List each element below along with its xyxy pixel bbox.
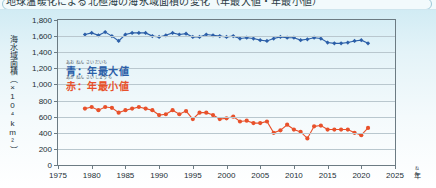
sea-ice-extent-chart-figure: 地球温暖化による北極海の海氷域面積の変化（年最大値・年最小値） 海水域面積（×1…: [0, 0, 436, 188]
data-point-marker: [117, 111, 121, 115]
data-point-marker: [204, 111, 208, 115]
y-gridline: [58, 36, 395, 37]
y-tick-mark: [54, 36, 58, 37]
data-point-marker: [123, 108, 127, 112]
data-point-marker: [332, 127, 336, 131]
data-point-marker: [197, 111, 201, 115]
data-point-marker: [150, 108, 154, 112]
y-tick-label: 400: [18, 128, 52, 137]
data-point-marker: [144, 31, 148, 35]
y-tick-mark: [54, 68, 58, 69]
y-tick-label: 1,600: [18, 32, 52, 41]
x-tick-mark: [361, 165, 362, 169]
data-point-marker: [170, 31, 174, 35]
data-point-marker: [366, 41, 370, 45]
x-tick-label: 2025: [375, 171, 415, 180]
data-point-marker: [326, 127, 330, 131]
x-axis-unit: ねん 年: [414, 170, 421, 180]
y-tick-label: 600: [18, 112, 52, 121]
data-point-marker: [305, 136, 309, 140]
data-point-marker: [90, 31, 94, 35]
data-point-marker: [245, 119, 249, 123]
data-point-marker: [258, 38, 262, 42]
y-tick-label: 1,000: [18, 80, 52, 89]
data-point-marker: [332, 41, 336, 45]
data-point-marker: [359, 38, 363, 42]
y-tick-label: 800: [18, 96, 52, 105]
x-axis-unit-ruby: ねん: [415, 165, 421, 177]
data-point-marker: [96, 108, 100, 112]
data-point-marker: [238, 119, 242, 123]
y-axis-title: 海水域面積（×10⁴km²）: [1, 34, 17, 154]
y-tick-mark: [54, 101, 58, 102]
data-point-marker: [110, 106, 114, 110]
x-tick-mark: [227, 165, 228, 169]
y-tick-mark: [54, 52, 58, 53]
x-tick-mark: [193, 165, 194, 169]
x-tick-mark: [294, 165, 295, 169]
y-gridline: [58, 52, 395, 53]
data-point-marker: [83, 107, 87, 111]
data-point-marker: [265, 39, 269, 43]
x-tick-mark: [395, 165, 396, 169]
data-point-marker: [137, 31, 141, 35]
data-point-marker: [339, 41, 343, 45]
figure-caption-strip: 地球温暖化による北極海の海氷域面積の変化（年最大値・年最小値）: [0, 0, 436, 10]
y-tick-mark: [54, 20, 58, 21]
data-point-marker: [339, 127, 343, 131]
data-point-marker: [312, 124, 316, 128]
y-tick-label: 0: [18, 161, 52, 170]
y-axis-title-text: 海水域面積（×10⁴km²）: [8, 35, 17, 154]
x-tick-mark: [159, 165, 160, 169]
y-gridline: [58, 117, 395, 118]
data-point-marker: [346, 127, 350, 131]
data-point-marker: [346, 40, 350, 44]
x-tick-mark: [92, 165, 93, 169]
data-point-marker: [285, 123, 289, 127]
data-point-marker: [265, 119, 269, 123]
data-point-marker: [184, 109, 188, 113]
data-point-marker: [258, 121, 262, 125]
data-point-marker: [103, 105, 107, 109]
x-tick-mark: [260, 165, 261, 169]
data-point-marker: [170, 108, 174, 112]
figure-caption: 地球温暖化による北極海の海氷域面積の変化（年最大値・年最小値）: [6, 0, 322, 8]
data-point-marker: [130, 31, 134, 35]
data-point-marker: [352, 39, 356, 43]
x-tick-mark: [125, 165, 126, 169]
y-tick-mark: [54, 84, 58, 85]
y-tick-mark: [54, 149, 58, 150]
y-gridline: [58, 133, 395, 134]
data-point-marker: [299, 38, 303, 42]
legend-item-min-label: 赤：年最小値: [66, 78, 129, 93]
data-point-marker: [319, 123, 323, 127]
x-tick-mark: [58, 165, 59, 169]
y-tick-label: 1,800: [18, 16, 52, 25]
data-point-marker: [90, 105, 94, 109]
data-point-marker: [130, 107, 134, 111]
y-gridline: [58, 101, 395, 102]
y-tick-label: 1,200: [18, 64, 52, 73]
data-point-marker: [144, 107, 148, 111]
y-tick-label: 1,400: [18, 48, 52, 57]
data-point-marker: [251, 121, 255, 125]
y-tick-mark: [54, 117, 58, 118]
y-tick-mark: [54, 133, 58, 134]
y-gridline: [58, 149, 395, 150]
data-point-marker: [292, 127, 296, 131]
y-tick-label: 200: [18, 144, 52, 153]
data-point-marker: [305, 37, 309, 41]
data-point-marker: [366, 126, 370, 130]
data-point-marker: [137, 105, 141, 109]
x-tick-mark: [328, 165, 329, 169]
